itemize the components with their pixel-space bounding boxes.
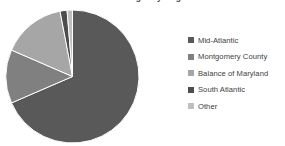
legend-swatch-icon [188,87,194,93]
legend-swatch-icon [188,70,194,76]
legend-item-label: Other [198,102,217,111]
legend-item-south-atlantic[interactable]: South Atlantic [188,82,283,99]
legend-item-label: Mid-Atlantic [198,36,238,45]
legend-swatch-icon [188,103,194,109]
legend-item-other[interactable]: Other [188,98,283,115]
legend-item-label: South Atlantic [198,85,245,94]
legend-item-label: Montgomery County [198,52,267,61]
plot-area [0,0,160,146]
pie-slices-group [6,10,139,143]
legend-item-montgomery-county[interactable]: Montgomery County [188,49,283,66]
legend-swatch-icon [188,37,194,43]
legend-swatch-icon [188,54,194,60]
legend-item-balance-of-maryland[interactable]: Balance of Maryland [188,65,283,82]
legend-item-mid-atlantic[interactable]: Mid-Atlantic [188,32,283,49]
chart-legend: Mid-Atlantic Montgomery County Balance o… [188,32,283,115]
pie-svg [0,0,160,146]
pie-chart-figure: Patient Origin by Region Mid-Atlantic Mo… [0,0,285,146]
legend-item-label: Balance of Maryland [198,69,268,78]
